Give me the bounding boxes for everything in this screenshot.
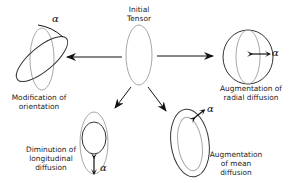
label-line: diffusion bbox=[22, 163, 80, 172]
diffusion-tensor-diagram: Initial Tensor α Modification of orienta… bbox=[0, 0, 294, 183]
label-line: diffusion bbox=[208, 168, 264, 177]
label-line: Tensor bbox=[120, 14, 158, 23]
longitudinal-label: Diminution of longitudinal diffusion bbox=[22, 145, 80, 172]
radial-label: Augmentation of radial diffusion bbox=[214, 84, 288, 102]
arrows bbox=[67, 56, 213, 111]
label-line: radial diffusion bbox=[214, 93, 288, 102]
label-line: Diminution of bbox=[22, 145, 80, 154]
orientation-glyph bbox=[10, 25, 74, 90]
label-line: Augmentation bbox=[208, 150, 264, 159]
alpha-symbol-mean: α bbox=[207, 104, 214, 114]
label-line: longitudinal bbox=[22, 154, 80, 163]
label-line: Initial bbox=[120, 5, 158, 14]
orientation-label: Modification of orientation bbox=[4, 93, 74, 111]
alpha-symbol-radial: α bbox=[272, 48, 279, 58]
label-line: Augmentation of bbox=[214, 84, 288, 93]
alpha-symbol-longitudinal: α bbox=[100, 163, 107, 173]
mean-label: Augmentation of mean diffusion bbox=[208, 150, 264, 177]
label-line: Modification of bbox=[4, 93, 74, 102]
arrow-to-longitudinal bbox=[115, 87, 131, 108]
initial-tensor-label: Initial Tensor bbox=[120, 5, 158, 23]
angle-arc bbox=[38, 25, 63, 37]
mean-glyph bbox=[166, 107, 213, 180]
label-line: of mean bbox=[208, 159, 264, 168]
arrow-to-mean bbox=[148, 87, 166, 111]
label-line: orientation bbox=[4, 102, 74, 111]
alpha-symbol-orientation: α bbox=[52, 14, 59, 24]
radial-glyph bbox=[223, 30, 273, 84]
initial-tensor-ellipse bbox=[126, 25, 152, 85]
